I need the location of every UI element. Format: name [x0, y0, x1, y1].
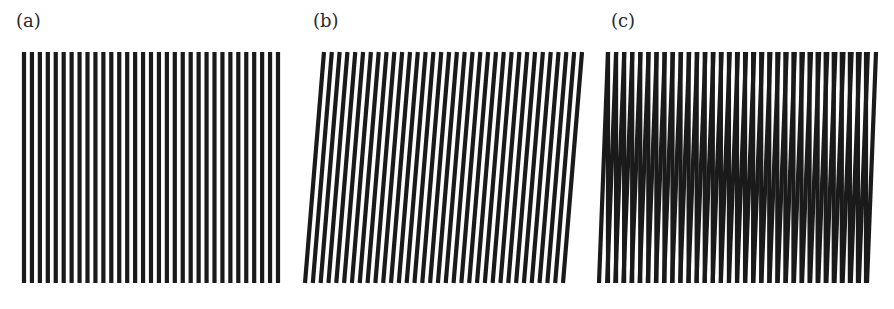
moire-gratings-figure	[0, 0, 894, 309]
panel-b-tilted-grating	[305, 52, 582, 283]
panel-a-vertical-grating	[24, 52, 278, 283]
panel-c-moire-overlay	[599, 52, 876, 283]
